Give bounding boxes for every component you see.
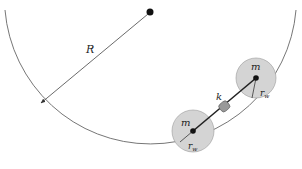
diagram-svg: R k m m rw rw — [0, 0, 302, 169]
diagram-canvas: R k m m rw rw — [0, 0, 302, 169]
spring-label: k — [216, 91, 222, 102]
mass-label-upper: m — [251, 61, 260, 72]
radius-label: R — [85, 43, 94, 56]
mass-label-lower: m — [181, 117, 190, 128]
radius-arrow — [41, 14, 148, 103]
